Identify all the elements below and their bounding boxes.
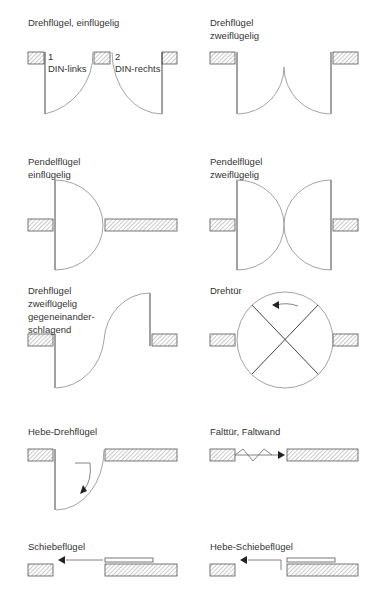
panel-pendelfluegel-zweifluegelig	[210, 180, 358, 270]
sublabel-number: 2	[115, 51, 120, 63]
wall-section	[105, 564, 177, 576]
arrowhead-icon	[80, 485, 87, 494]
sublabel-text: DIN-links	[48, 63, 87, 75]
wall-section	[210, 334, 235, 346]
panel-falttuer	[210, 449, 358, 461]
panel-title: Falttür, Faltwand	[210, 425, 280, 438]
swing-arc	[104, 293, 150, 340]
wall-section	[28, 449, 53, 461]
panel-schiebefluegel	[28, 556, 177, 576]
wall-section	[287, 449, 358, 461]
panel-title: Schiebeflügel	[28, 540, 85, 553]
panel-title: Pendelflügel zweiflügelig	[210, 155, 262, 181]
swing-arc	[284, 67, 330, 114]
wall-section	[287, 564, 358, 576]
wall-section	[210, 219, 235, 231]
panel-title: Pendelflügel einflügelig	[28, 155, 80, 181]
swing-arc	[237, 180, 284, 270]
panel-hebe-schiebefluegel	[210, 556, 358, 576]
wall-section	[28, 564, 53, 576]
arrowhead-icon	[272, 301, 279, 309]
swing-arc	[238, 67, 284, 114]
wall-section	[210, 52, 235, 64]
swing-arc	[56, 340, 104, 388]
panel-title: Drehflügel, einflügelig	[28, 16, 119, 29]
wall-section	[28, 52, 44, 64]
wall-section	[162, 52, 177, 64]
wall-section	[105, 449, 177, 461]
panel-title: Hebe-Schiebeflügel	[210, 540, 293, 553]
arrowhead-icon	[240, 556, 247, 564]
wall-section	[333, 219, 358, 231]
wall-section	[333, 334, 358, 346]
wall-section	[105, 219, 177, 231]
wall-section	[333, 52, 358, 64]
arrowhead-icon	[278, 451, 285, 459]
rotation-arrow-icon	[276, 304, 298, 306]
panel-pendelfluegel-einfluegelig	[28, 180, 177, 270]
sliding-panel	[105, 558, 153, 562]
sliding-panel	[287, 558, 335, 562]
swing-arc	[284, 180, 331, 270]
panel-title: Drehtür	[210, 284, 242, 297]
wall-section	[28, 219, 53, 231]
swing-arc	[56, 450, 104, 510]
panel-drehfluegel-zweifluegelig	[210, 52, 358, 114]
arrowhead-icon	[58, 556, 65, 564]
swing-arc	[55, 180, 103, 270]
wall-section	[210, 564, 235, 576]
wall-section	[94, 52, 110, 64]
panel-hebe-drehfluegel	[28, 449, 177, 510]
wall-section	[210, 449, 235, 461]
panel-drehtuer	[210, 292, 358, 388]
panel-title: Drehflügel zweiflügelig gegeneinander- s…	[28, 284, 95, 336]
sublabel-number: 1	[48, 51, 53, 63]
wall-section	[152, 334, 177, 346]
panel-title: Hebe-Drehflügel	[28, 425, 97, 438]
sublabel-text: DIN-rechts	[115, 63, 160, 75]
panel-title: Drehflügel zweiflügelig	[210, 16, 259, 42]
